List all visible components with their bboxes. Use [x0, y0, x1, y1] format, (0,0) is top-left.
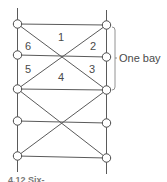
panel-label-3: 3: [89, 64, 95, 75]
joint-node: [13, 20, 21, 28]
joint-node: [13, 51, 21, 59]
joint-node: [13, 152, 21, 160]
joint-node: [13, 117, 21, 125]
horizontal-member: [18, 156, 107, 158]
joint-node: [13, 85, 21, 93]
panel-label-2: 2: [90, 41, 96, 52]
panel-label-5: 5: [25, 64, 31, 75]
joint-node: [102, 86, 110, 94]
joint-node: [102, 119, 110, 127]
joint-node: [102, 53, 110, 61]
panel-label-1: 1: [58, 32, 64, 43]
horizontal-member: [18, 89, 107, 90]
joint-node: [102, 21, 110, 29]
bay-label: One bay: [119, 53, 161, 64]
joint-node: [102, 154, 110, 162]
bay-bracket: [112, 27, 115, 90]
truss-diagram: [0, 0, 167, 182]
panel-label-6: 6: [25, 41, 31, 52]
horizontal-member: [18, 24, 107, 25]
panel-label-4: 4: [58, 72, 64, 83]
figure-caption: 4.12 Six-: [8, 175, 45, 182]
